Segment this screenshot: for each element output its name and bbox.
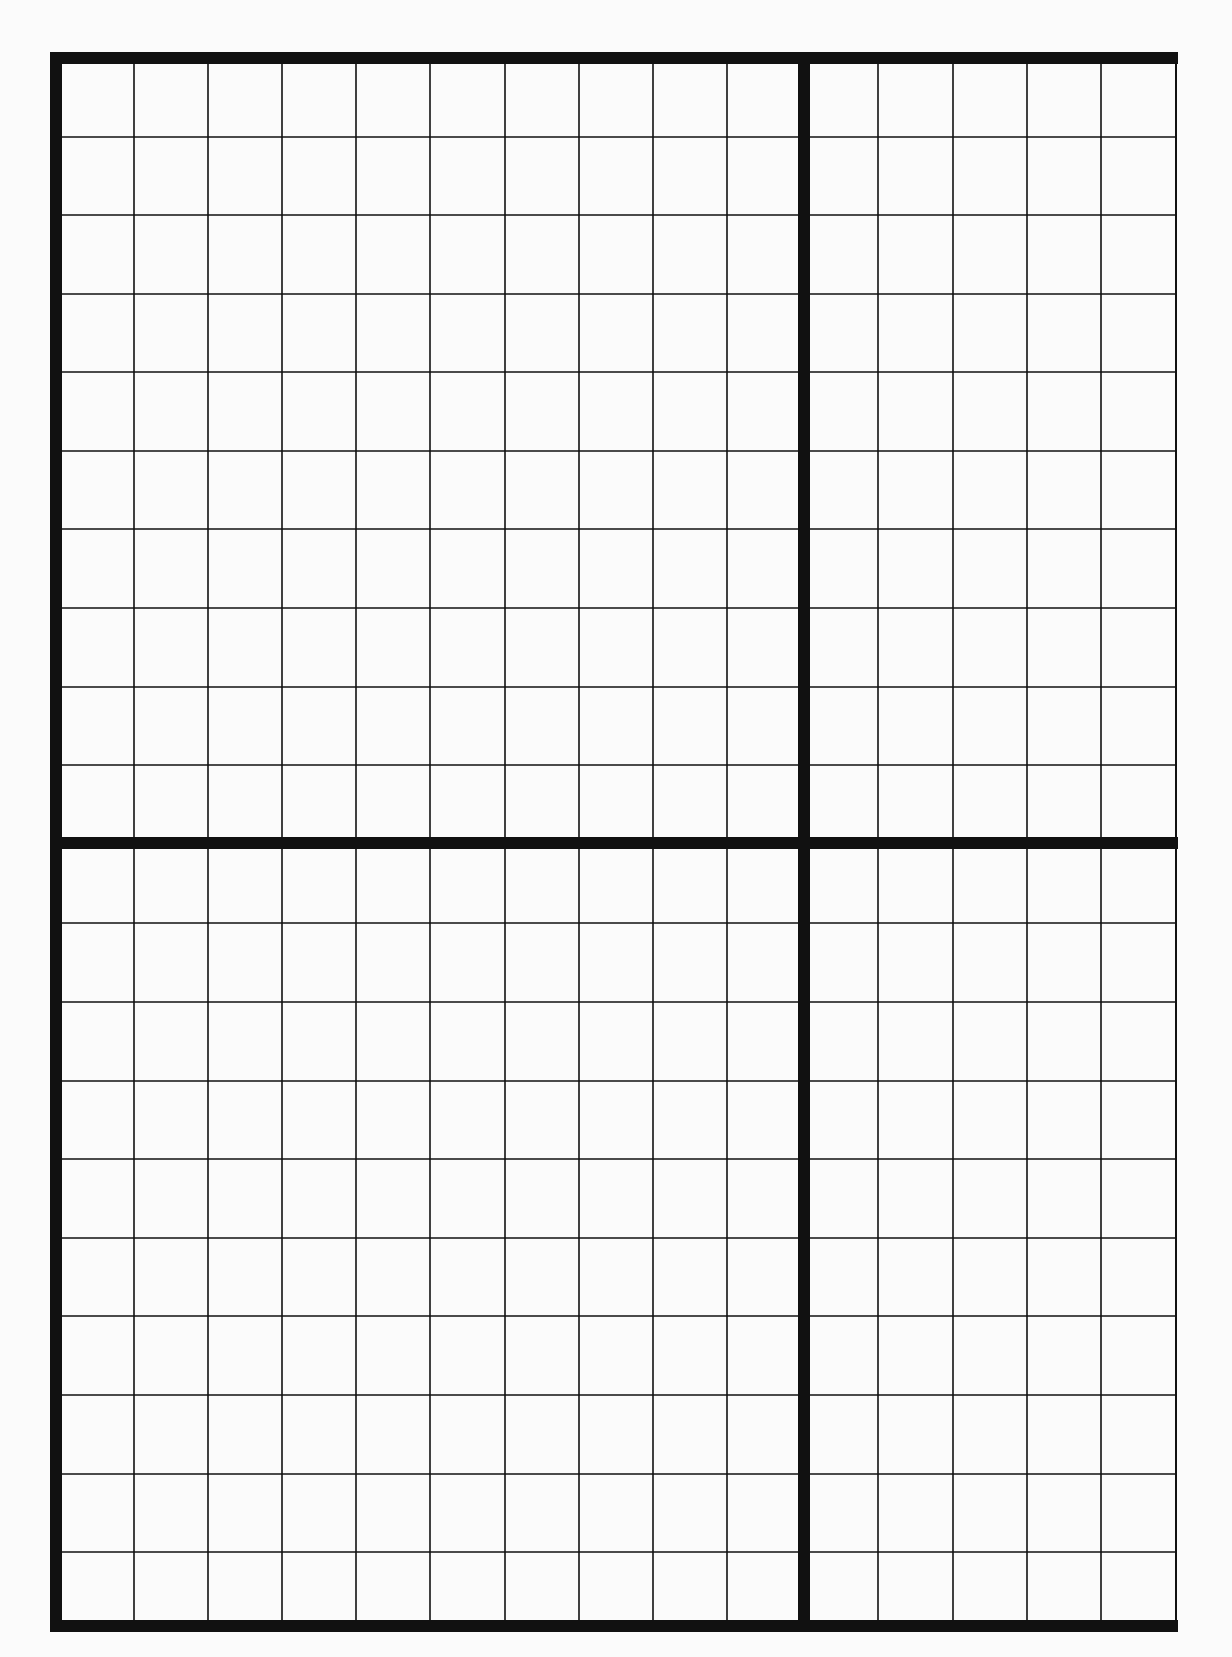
border-bottom <box>50 1620 1178 1632</box>
grid-paper <box>0 0 1232 1657</box>
grid-sheet <box>0 0 1232 1657</box>
border-top <box>50 52 1178 64</box>
divider-horizontal <box>50 837 1178 849</box>
